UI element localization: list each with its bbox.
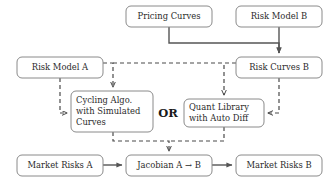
node-label-risk-model-a: Risk Model A [32,62,89,72]
edge-riskmodela-bus-to-cycling-top [103,63,113,87]
node-quant-library[interactable]: Quant Librarywith Auto Diff [184,99,264,127]
node-label-quant-library: Quant Library [189,102,249,112]
node-label-risk-model-b: Risk Model B [251,11,307,21]
node-pricing-curves[interactable]: Pricing Curves [126,6,212,27]
node-label-jacobian: Jacobian A → B [136,160,201,170]
edge-cycling-to-jacobian [113,132,169,151]
node-label-market-risks-b: Market Risks B [246,160,311,170]
node-market-risks-b[interactable]: Market Risks B [236,155,322,176]
or-label: OR [158,106,178,120]
node-risk-curves-b[interactable]: Risk Curves B [236,57,322,78]
node-jacobian[interactable]: Jacobian A → B [126,155,212,176]
node-label-quant-library: with Auto Diff [189,113,249,123]
node-label-cycling-algo: Cycling Algo. [76,95,132,105]
edge-riskcurvesb-bus-to-quant-top [224,63,236,95]
node-risk-model-a[interactable]: Risk Model A [17,57,103,78]
edge-pricing-to-riskcurvesb [169,27,279,53]
node-label-market-risks-a: Market Risks A [28,160,94,170]
flow-diagram-svg: Pricing CurvesRisk Model BRisk Model ARi… [0,0,333,182]
edge-quant-to-jacobian [169,127,224,141]
node-label-cycling-algo: with Simulated [76,106,141,116]
node-label-pricing-curves: Pricing Curves [138,11,201,21]
edge-riskcurvesb-to-quant [268,78,279,113]
edge-riskmodela-to-cycling [60,78,67,113]
node-risk-model-b[interactable]: Risk Model B [236,6,322,27]
node-cycling-algo[interactable]: Cycling Algo.with SimulatedCurves [71,91,153,132]
node-market-risks-a[interactable]: Market Risks A [17,155,103,176]
node-label-risk-curves-b: Risk Curves B [249,62,309,72]
diagram-canvas: Pricing CurvesRisk Model BRisk Model ARi… [0,0,333,182]
node-label-cycling-algo: Curves [76,117,106,127]
